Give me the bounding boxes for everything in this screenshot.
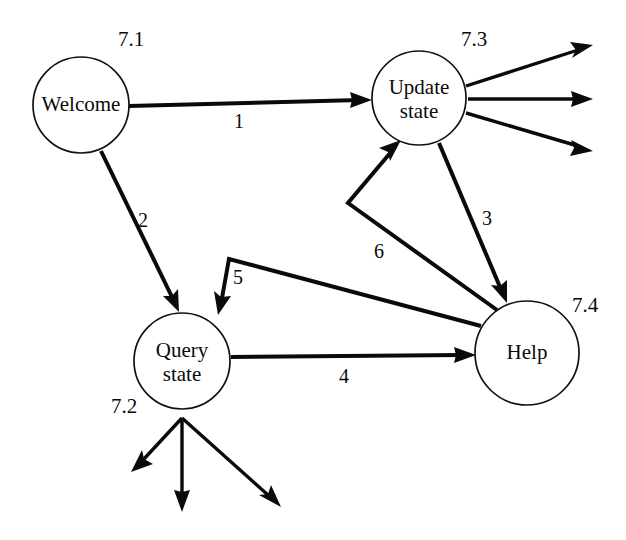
node-help-label: Help — [507, 340, 548, 364]
edge-6-label: 6 — [374, 240, 384, 262]
query-out-3-arrow[interactable] — [182, 418, 281, 507]
query-out-2-arrowhead — [174, 490, 190, 512]
query-out-1-arrow[interactable] — [131, 418, 182, 472]
query-out-3-line — [182, 418, 268, 495]
query-out-1-line — [143, 418, 182, 460]
node-query-state-id: 7.2 — [111, 394, 137, 418]
edge-4-arrowhead — [454, 347, 476, 363]
node-welcome[interactable]: Welcome — [33, 57, 129, 153]
edge-5-label: 5 — [233, 266, 243, 288]
node-welcome-id: 7.1 — [118, 27, 144, 51]
node-query-state-label-line1: Query — [156, 338, 209, 362]
edge-2-welcome-to-query-state[interactable]: 2 — [101, 151, 179, 312]
diagram-canvas: 1 2 3 4 5 6 — [0, 0, 626, 540]
query-state-outgoing-arrows — [131, 418, 281, 512]
edge-6-arrowhead — [379, 140, 401, 161]
update-out-3-arrow[interactable] — [466, 113, 593, 156]
node-help-id: 7.4 — [572, 293, 599, 317]
query-out-2-arrow[interactable] — [174, 418, 190, 512]
node-welcome-label: Welcome — [42, 92, 121, 116]
edge-4-line — [231, 355, 462, 357]
update-state-outgoing-arrows — [466, 42, 593, 156]
node-update-state-label-line2: state — [400, 99, 438, 123]
edge-1-arrowhead — [350, 92, 372, 108]
node-update-state-label-line1: Update — [389, 75, 450, 99]
node-update-state-id: 7.3 — [461, 27, 487, 51]
edge-1-welcome-to-update-state[interactable]: 1 — [129, 92, 372, 132]
edge-4-query-state-to-help[interactable]: 4 — [231, 347, 476, 387]
edge-2-label: 2 — [138, 209, 148, 231]
update-out-2-arrow[interactable] — [468, 91, 593, 107]
edge-4-label: 4 — [339, 365, 349, 387]
node-query-state[interactable]: Query state — [134, 313, 230, 409]
node-update-state[interactable]: Update state — [372, 51, 466, 145]
update-out-2-arrowhead — [571, 91, 593, 107]
edge-2-line — [101, 151, 172, 297]
node-help[interactable]: Help — [475, 301, 579, 405]
edge-3-label: 3 — [482, 207, 492, 229]
edge-1-line — [129, 100, 360, 106]
edge-1-label: 1 — [234, 110, 244, 132]
edge-3-update-state-to-help[interactable]: 3 — [439, 143, 507, 303]
update-out-1-line — [466, 50, 578, 86]
data-flow-diagram: 1 2 3 4 5 6 — [0, 0, 626, 540]
update-out-3-line — [466, 113, 578, 146]
node-query-state-label-line2: state — [163, 362, 201, 386]
update-out-3-arrowhead — [570, 140, 593, 156]
